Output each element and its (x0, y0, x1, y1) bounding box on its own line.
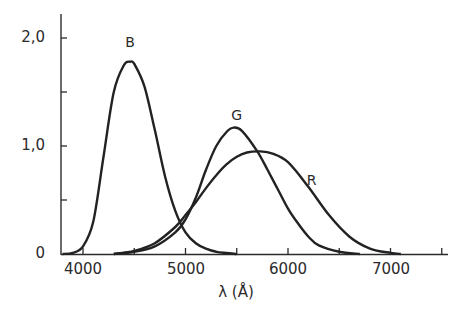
curves (63, 61, 401, 254)
x-axis-label: λ (Å) (218, 283, 254, 301)
x-tick-label-7000: 7000 (372, 260, 410, 278)
y-ticks (61, 38, 67, 200)
y-tick-label-2: 2,0 (5, 28, 45, 46)
y-tick-label-1: 1,0 (5, 136, 45, 154)
curve-r (114, 151, 401, 254)
y-tick-label-0: 0 (5, 244, 45, 262)
x-tick-label-6000: 6000 (269, 260, 307, 278)
x-tick-label-5000: 5000 (167, 260, 205, 278)
series-label-g: G (231, 107, 242, 123)
series-label-r: R (307, 172, 317, 188)
series-label-b: B (125, 34, 135, 50)
curve-g (114, 128, 360, 254)
x-tick-label-4000: 4000 (64, 260, 102, 278)
